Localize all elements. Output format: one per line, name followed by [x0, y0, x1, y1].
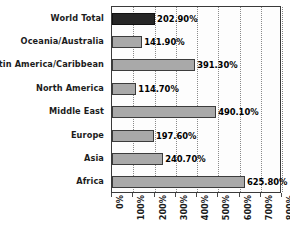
x-tick-label: 100% — [136, 195, 146, 227]
bar-value-label: 490.10% — [218, 106, 258, 118]
category-label: Latin America/Caribbean — [0, 58, 104, 70]
x-tick-label: 0% — [115, 195, 125, 227]
category-label: World Total — [51, 12, 104, 24]
category-axis-labels: World TotalOceania/AustraliaLatin Americ… — [0, 6, 108, 193]
bar — [112, 130, 154, 142]
category-label: Africa — [76, 175, 104, 187]
tick-mark — [281, 193, 282, 197]
x-tick-label: 300% — [179, 195, 189, 227]
x-tick-label: 200% — [158, 195, 168, 227]
bar-value-label: 240.70% — [165, 153, 205, 165]
bar — [112, 36, 142, 48]
bar — [112, 106, 216, 118]
category-label: Oceania/Australia — [21, 35, 104, 47]
bar — [112, 83, 136, 95]
category-label: Asia — [84, 152, 104, 164]
gridline — [240, 7, 241, 192]
bar-value-label: 625.80% — [247, 176, 287, 188]
bar-chart: World TotalOceania/AustraliaLatin Americ… — [0, 0, 290, 229]
plot-inner: 202.90%141.90%391.30%114.70%490.10%197.6… — [112, 7, 280, 192]
gridline — [261, 7, 262, 192]
category-label: Europe — [71, 129, 104, 141]
bar — [112, 59, 195, 71]
bar — [112, 13, 155, 25]
bar-value-label: 391.30% — [197, 59, 237, 71]
plot-area: 202.90%141.90%391.30%114.70%490.10%197.6… — [111, 6, 281, 193]
bar-value-label: 202.90% — [157, 13, 197, 25]
bar-value-label: 141.90% — [144, 36, 184, 48]
bar-value-label: 114.70% — [138, 83, 178, 95]
bar — [112, 153, 163, 165]
gridline — [218, 7, 219, 192]
category-label: North America — [36, 82, 104, 94]
x-tick-label: 600% — [243, 195, 253, 227]
x-tick-label: 800% — [285, 195, 290, 227]
category-label: Middle East — [49, 105, 104, 117]
x-tick-label: 700% — [264, 195, 274, 227]
x-tick-label: 500% — [221, 195, 231, 227]
gridline — [282, 7, 283, 192]
x-axis-tick-labels: 0%100%200%300%400%500%600%700%800% — [111, 197, 281, 229]
bar-value-label: 197.60% — [156, 130, 196, 142]
bar — [112, 176, 245, 188]
x-tick-label: 400% — [200, 195, 210, 227]
